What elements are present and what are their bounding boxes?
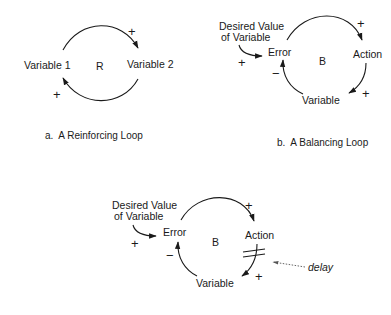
polarity-plus: + [362,86,370,101]
delay-label: delay [308,261,334,273]
delay-pointer-arrow [273,262,305,267]
caption-reinforcing-loop: a. A Reinforcing Loop [45,130,143,141]
link-variable-to-error-arrow [178,242,197,276]
loop-label-b: B [319,55,326,67]
polarity-plus: + [238,55,246,70]
reinforcing-loop-diagram: Variable 1 Variable 2 R + + a. A Reinfor… [24,24,174,141]
polarity-plus: + [131,236,139,251]
node-error: Error [163,226,187,238]
balancing-loop-diagram: Desired Value of Variable + Error Action… [219,16,382,148]
balancing-loop-with-delay-diagram: Desired Value of Variable + Error Action… [112,198,334,289]
link-var1-to-var2-arrow [63,26,138,50]
node-variable-1: Variable 1 [24,59,71,71]
link-var2-to-var1-arrow [63,78,138,101]
node-error: Error [268,46,292,58]
loop-label-b: B [212,236,219,248]
polarity-plus: + [128,24,136,39]
polarity-minus: − [166,248,174,263]
goal-label-line2: of Variable [221,31,271,43]
polarity-plus: + [255,269,263,284]
polarity-minus: − [272,66,280,81]
goal-label-line2: of Variable [114,210,164,222]
polarity-plus: + [245,198,253,213]
node-variable: Variable [302,94,340,106]
delay-mark [243,249,265,252]
link-error-to-action-arrow [287,16,362,40]
link-goal-to-error-arrow [133,225,156,236]
node-action: Action [353,48,382,60]
caption-balancing-loop: b. A Balancing Loop [277,137,369,148]
node-variable-2: Variable 2 [127,58,174,70]
polarity-plus: + [53,87,61,102]
node-variable: Variable [196,277,234,289]
link-variable-to-error-arrow [283,60,303,94]
polarity-plus: + [357,16,365,31]
loop-label-r: R [96,60,104,72]
causal-loop-diagrams: Variable 1 Variable 2 R + + a. A Reinfor… [0,0,391,315]
link-error-to-action-arrow [181,198,254,221]
delay-mark [243,254,265,257]
node-action: Action [245,229,274,241]
